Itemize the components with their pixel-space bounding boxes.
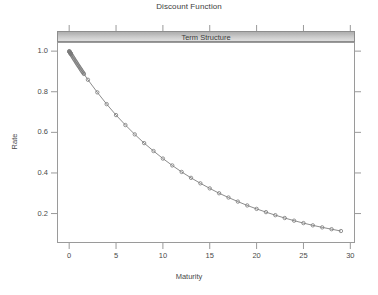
x-tick-label: 25	[291, 251, 315, 260]
x-axis-label: Maturity	[0, 272, 378, 281]
y-axis-label: Rate	[10, 121, 19, 161]
x-tick-label: 5	[104, 251, 128, 260]
x-tick-label: 10	[151, 251, 175, 260]
panel-border	[58, 43, 355, 243]
y-tick-label: 0.6	[26, 127, 48, 136]
strip-header: Term Structure	[57, 31, 355, 42]
series-line	[69, 51, 341, 231]
x-tick-label: 0	[57, 251, 81, 260]
discount-function-chart: Discount Function Term Structure 0510152…	[0, 0, 378, 295]
y-tick-label: 0.2	[26, 209, 48, 218]
series-markers	[68, 49, 343, 232]
x-tick-label: 15	[198, 251, 222, 260]
x-tick-label: 20	[245, 251, 269, 260]
strip-header-label: Term Structure	[58, 32, 354, 43]
y-tick-label: 0.8	[26, 87, 48, 96]
y-tick-label: 0.4	[26, 168, 48, 177]
x-tick-label: 30	[338, 251, 362, 260]
y-tick-label: 1.0	[26, 46, 48, 55]
